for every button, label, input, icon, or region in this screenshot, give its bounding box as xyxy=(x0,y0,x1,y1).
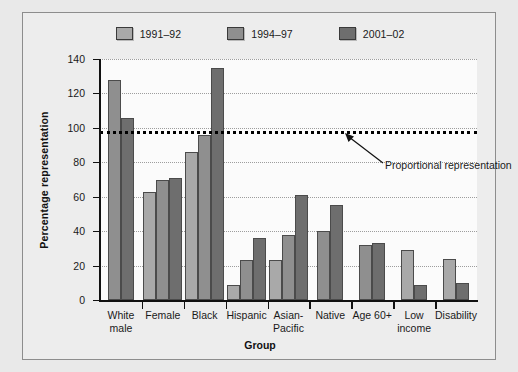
x-axis-group-tick xyxy=(268,302,270,309)
y-axis-tick: 20 xyxy=(93,266,99,267)
x-axis-group-tick xyxy=(351,302,353,309)
legend-swatch-icon xyxy=(339,27,356,40)
y-axis-tick-label: 80 xyxy=(73,156,85,168)
bar[interactable] xyxy=(108,80,121,300)
y-axis-tick-label: 100 xyxy=(67,122,85,134)
bar[interactable] xyxy=(121,118,134,300)
bar-group xyxy=(268,59,310,300)
y-axis-tick: 60 xyxy=(93,197,99,198)
bar[interactable] xyxy=(185,152,198,300)
legend-item-label: 2001–02 xyxy=(363,28,405,40)
bar[interactable] xyxy=(317,231,330,300)
y-axis-tick-label: 120 xyxy=(67,87,85,99)
x-axis-group-tick xyxy=(435,302,437,309)
bar[interactable] xyxy=(211,68,224,300)
x-axis-group-tick xyxy=(309,302,311,309)
chart-figure: 1991–921994–972001–02 Percentage represe… xyxy=(0,0,518,372)
y-axis-title: Percentage representation xyxy=(37,59,51,300)
bar[interactable] xyxy=(401,250,414,300)
bar-group xyxy=(393,59,435,300)
proportional-representation-line xyxy=(100,131,477,134)
x-axis-group-tick xyxy=(393,302,395,309)
bar[interactable] xyxy=(156,180,169,301)
bar[interactable] xyxy=(253,238,266,300)
y-axis-tick: 140 xyxy=(93,59,99,60)
bar-groups xyxy=(100,59,477,300)
bar[interactable] xyxy=(295,195,308,300)
x-axis-group-tick xyxy=(226,302,228,309)
bar[interactable] xyxy=(227,285,240,300)
bar[interactable] xyxy=(443,259,456,300)
annotation-label: Proportional representation xyxy=(385,159,512,171)
x-axis-label: Female xyxy=(142,309,184,334)
bar-group xyxy=(184,59,226,300)
legend-item[interactable]: 1994–97 xyxy=(227,27,293,40)
y-axis-tick: 40 xyxy=(93,231,99,232)
legend-item[interactable]: 2001–02 xyxy=(339,27,405,40)
x-axis-group-tick xyxy=(184,302,186,309)
y-axis-tick-label: 40 xyxy=(73,225,85,237)
bar[interactable] xyxy=(456,283,469,300)
y-axis-tick-label: 20 xyxy=(73,260,85,272)
bar[interactable] xyxy=(269,260,282,300)
y-axis-tick: 100 xyxy=(93,128,99,129)
x-axis-label: Low income xyxy=(393,309,435,334)
chart-panel: 1991–921994–972001–02 Percentage represe… xyxy=(22,12,496,360)
plot-area: Proportional representation xyxy=(100,59,477,300)
bar[interactable] xyxy=(372,243,385,300)
x-axis-label: Black xyxy=(184,309,226,334)
legend-swatch-icon xyxy=(116,27,133,40)
x-axis-label: Hispanic xyxy=(226,309,268,334)
bar[interactable] xyxy=(143,192,156,300)
y-axis-tick-label: 60 xyxy=(73,191,85,203)
bar[interactable] xyxy=(330,205,343,300)
bar[interactable] xyxy=(359,245,372,300)
bar-group xyxy=(309,59,351,300)
bar[interactable] xyxy=(198,135,211,300)
annotation-arrow-icon xyxy=(345,133,385,165)
bar[interactable] xyxy=(282,235,295,300)
bar-group xyxy=(351,59,393,300)
chart-legend: 1991–921994–972001–02 xyxy=(23,27,497,40)
x-axis-label: Native xyxy=(309,309,351,334)
legend-swatch-icon xyxy=(227,27,244,40)
legend-item-label: 1991–92 xyxy=(140,28,182,40)
x-axis-label: Asian- Pacific xyxy=(268,309,310,334)
y-axis-line: 140120100806040200 xyxy=(99,59,101,301)
x-axis-group-ticks xyxy=(99,302,478,309)
legend-item-label: 1994–97 xyxy=(251,28,293,40)
bar-group xyxy=(100,59,142,300)
legend-item[interactable]: 1991–92 xyxy=(116,27,182,40)
x-axis-label: Disability xyxy=(435,309,477,334)
x-axis-label: Age 60+ xyxy=(351,309,393,334)
x-axis-labels: White maleFemaleBlackHispanicAsian- Paci… xyxy=(100,309,477,334)
y-axis-title-text: Percentage representation xyxy=(38,111,50,248)
x-axis-label: White male xyxy=(100,309,142,334)
y-axis-tick: 120 xyxy=(93,93,99,94)
bar-group xyxy=(435,59,477,300)
bar[interactable] xyxy=(240,260,253,300)
y-axis-tick-label: 0 xyxy=(79,294,85,306)
x-axis-group-tick xyxy=(142,302,144,309)
y-axis-tick: 80 xyxy=(93,162,99,163)
x-axis-title: Group xyxy=(23,339,497,351)
bar-group xyxy=(226,59,268,300)
bar[interactable] xyxy=(169,178,182,300)
bar-group xyxy=(142,59,184,300)
bar[interactable] xyxy=(414,285,427,300)
y-axis-tick-label: 140 xyxy=(67,53,85,65)
